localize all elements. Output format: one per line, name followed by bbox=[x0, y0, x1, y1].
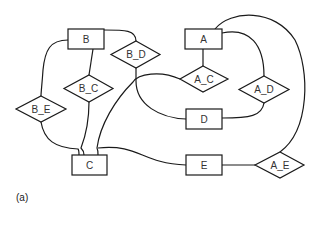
relationship-a_c: A_C bbox=[180, 66, 228, 92]
entity-c-label: C bbox=[86, 160, 93, 171]
entity-a-label: A bbox=[200, 34, 207, 45]
entity-a: A bbox=[185, 29, 222, 49]
entity-e: E bbox=[186, 155, 222, 175]
relationship-a_c-label: A_C bbox=[194, 74, 213, 85]
er-diagram: B A D C E B_D B_C B_E A_C A_D A_E (a) bbox=[0, 0, 322, 229]
relationship-a_d-label: A_D bbox=[254, 84, 273, 95]
figure-caption: (a) bbox=[16, 192, 28, 203]
entity-c: C bbox=[72, 155, 107, 175]
edge-b-to-b_d bbox=[104, 30, 136, 41]
relationship-a_e-label: A_E bbox=[271, 160, 290, 171]
entity-e-label: E bbox=[201, 160, 208, 171]
edge-b-to-b_c bbox=[89, 49, 93, 75]
relationship-b_d-label: B_D bbox=[126, 49, 145, 60]
entity-d-label: D bbox=[200, 114, 207, 125]
entity-b-label: B bbox=[83, 34, 90, 45]
relationship-b_e-label: B_E bbox=[32, 104, 51, 115]
entity-d: D bbox=[186, 109, 222, 129]
relationship-b_c-label: B_C bbox=[79, 83, 98, 94]
relationship-b_c: B_C bbox=[64, 75, 113, 102]
edge-b_c-to-c bbox=[81, 102, 89, 155]
edge-b_e-to-c bbox=[41, 122, 79, 155]
edge-c-to-e bbox=[98, 147, 186, 165]
entity-b: B bbox=[68, 29, 104, 49]
edge-a_d-to-d bbox=[222, 103, 264, 118]
relationship-a_e: A_E bbox=[255, 152, 304, 178]
edge-a-to-a_d bbox=[222, 32, 264, 76]
edge-b-to-b_e bbox=[41, 40, 68, 96]
relationship-b_e: B_E bbox=[16, 96, 66, 122]
relationship-b_d: B_D bbox=[111, 41, 160, 68]
edge-b_d-to-d bbox=[136, 81, 186, 119]
relationship-a_d: A_D bbox=[239, 76, 289, 103]
